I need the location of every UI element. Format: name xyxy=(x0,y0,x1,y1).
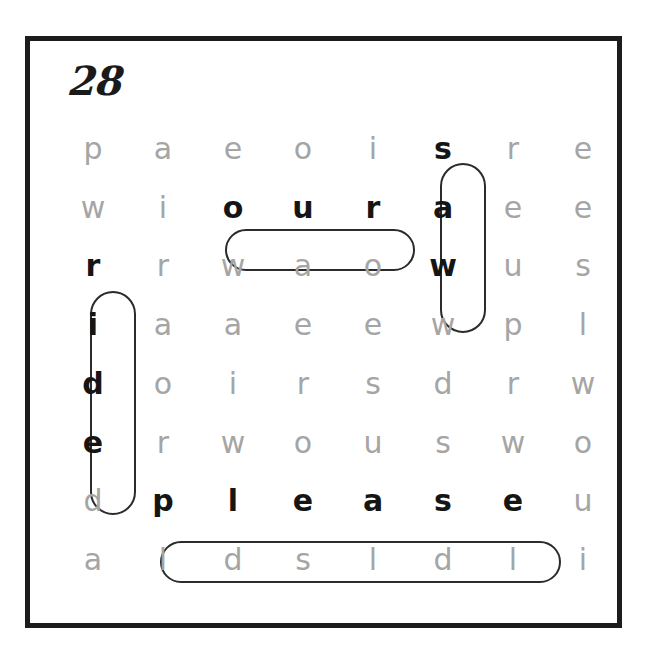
grid-row: dpleaseu xyxy=(58,472,618,531)
grid-letter-cell[interactable]: o xyxy=(268,413,338,472)
grid-letter-cell[interactable]: e xyxy=(478,178,548,237)
grid-letter-cell[interactable]: o xyxy=(268,119,338,178)
grid-letter-cell[interactable]: w xyxy=(198,237,268,296)
grid-letter-cell[interactable]: e xyxy=(478,472,548,531)
grid-letter-cell[interactable]: i xyxy=(198,354,268,413)
worksheet-border-frame: 28 paeoisrewiouraeerrwaowusiaaeewpldoirs… xyxy=(25,36,622,628)
grid-letter-cell[interactable]: w xyxy=(478,413,548,472)
grid-letter-cell[interactable]: u xyxy=(548,472,618,531)
grid-letter-cell[interactable]: w xyxy=(198,413,268,472)
grid-letter-cell[interactable]: a xyxy=(338,472,408,531)
grid-letter-cell[interactable]: a xyxy=(408,178,478,237)
grid-letter-cell[interactable]: e xyxy=(548,178,618,237)
grid-letter-cell[interactable]: l xyxy=(548,295,618,354)
grid-letter-cell[interactable]: w xyxy=(408,295,478,354)
grid-row: doirsdrw xyxy=(58,354,618,413)
grid-letter-cell[interactable]: o xyxy=(198,178,268,237)
grid-letter-cell[interactable]: e xyxy=(338,295,408,354)
grid-letter-cell[interactable]: a xyxy=(58,530,128,589)
grid-letter-cell[interactable]: e xyxy=(268,295,338,354)
grid-letter-cell[interactable]: r xyxy=(128,413,198,472)
grid-letter-cell[interactable]: l xyxy=(338,530,408,589)
grid-letter-cell[interactable]: r xyxy=(268,354,338,413)
grid-letter-cell[interactable]: s xyxy=(338,354,408,413)
grid-letter-cell[interactable]: d xyxy=(408,530,478,589)
grid-letter-cell[interactable]: w xyxy=(408,237,478,296)
grid-letter-cell[interactable]: i xyxy=(548,530,618,589)
grid-letter-cell[interactable]: p xyxy=(478,295,548,354)
grid-letter-cell[interactable]: a xyxy=(268,237,338,296)
grid-letter-cell[interactable]: r xyxy=(128,237,198,296)
grid-row: paeoisre xyxy=(58,119,618,178)
grid-row: erwouswo xyxy=(58,413,618,472)
grid-letter-cell[interactable]: r xyxy=(478,354,548,413)
grid-letter-cell[interactable]: s xyxy=(408,472,478,531)
grid-letter-cell[interactable]: d xyxy=(58,472,128,531)
grid-letter-cell[interactable]: u xyxy=(478,237,548,296)
grid-letter-cell[interactable]: w xyxy=(548,354,618,413)
grid-letter-cell[interactable]: l xyxy=(478,530,548,589)
grid-letter-cell[interactable]: o xyxy=(548,413,618,472)
grid-row: rrwaowus xyxy=(58,237,618,296)
puzzle-number-label: 28 xyxy=(69,61,125,101)
grid-letter-cell[interactable]: r xyxy=(338,178,408,237)
grid-letter-cell[interactable]: i xyxy=(338,119,408,178)
grid-letter-cell[interactable]: u xyxy=(338,413,408,472)
grid-letter-cell[interactable]: i xyxy=(128,178,198,237)
grid-row: aldsldli xyxy=(58,530,618,589)
grid-letter-cell[interactable]: p xyxy=(58,119,128,178)
grid-letter-cell[interactable]: d xyxy=(58,354,128,413)
grid-letter-cell[interactable]: a xyxy=(198,295,268,354)
grid-letter-cell[interactable]: d xyxy=(198,530,268,589)
grid-letter-cell[interactable]: r xyxy=(478,119,548,178)
grid-letter-cell[interactable]: i xyxy=(58,295,128,354)
grid-letter-cell[interactable]: a xyxy=(128,295,198,354)
grid-letter-cell[interactable]: o xyxy=(338,237,408,296)
grid-letter-cell[interactable]: s xyxy=(408,119,478,178)
grid-letter-cell[interactable]: e xyxy=(198,119,268,178)
grid-letter-cell[interactable]: l xyxy=(198,472,268,531)
grid-letter-cell[interactable]: e xyxy=(268,472,338,531)
grid-letter-cell[interactable]: r xyxy=(58,237,128,296)
grid-row: wiouraee xyxy=(58,178,618,237)
grid-letter-cell[interactable]: a xyxy=(128,119,198,178)
grid-letter-cell[interactable]: s xyxy=(268,530,338,589)
grid-letter-cell[interactable]: e xyxy=(548,119,618,178)
grid-letter-cell[interactable]: o xyxy=(128,354,198,413)
grid-letter-cell[interactable]: e xyxy=(58,413,128,472)
grid-letter-cell[interactable]: l xyxy=(128,530,198,589)
grid-letter-cell[interactable]: p xyxy=(128,472,198,531)
grid-letter-cell[interactable]: u xyxy=(268,178,338,237)
grid-row: iaaeewpl xyxy=(58,295,618,354)
grid-letter-cell[interactable]: s xyxy=(408,413,478,472)
grid-letter-cell[interactable]: s xyxy=(548,237,618,296)
grid-letter-cell[interactable]: w xyxy=(58,178,128,237)
word-search-grid[interactable]: paeoisrewiouraeerrwaowusiaaeewpldoirsdrw… xyxy=(58,119,618,589)
grid-letter-cell[interactable]: d xyxy=(408,354,478,413)
